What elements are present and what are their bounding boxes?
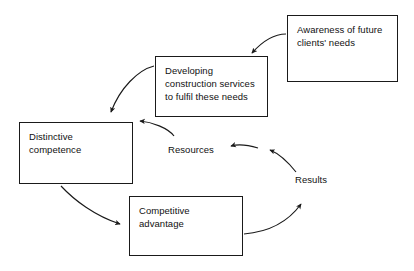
label-results: Results bbox=[295, 174, 327, 186]
node-label: Developing construction services to fulf… bbox=[165, 64, 267, 104]
node-label: Distinctive competence bbox=[29, 130, 132, 156]
arrow-results-to-resources bbox=[270, 150, 296, 172]
node-developing-construction-services[interactable]: Developing construction services to fulf… bbox=[155, 56, 268, 117]
label-resources: Resources bbox=[168, 144, 214, 156]
arrow-resources-inbound-segment bbox=[231, 145, 258, 148]
arrow-resources-to-distinctive bbox=[140, 121, 174, 136]
arrow-developing-to-distinctive bbox=[111, 66, 154, 112]
node-distinctive-competence[interactable]: Distinctive competence bbox=[19, 122, 133, 184]
node-label: Competitive advantage bbox=[139, 204, 242, 230]
node-label: Awareness of future clients' needs bbox=[297, 23, 397, 49]
arrow-distinctive-to-competitive bbox=[61, 186, 120, 224]
node-competitive-advantage[interactable]: Competitive advantage bbox=[129, 196, 243, 256]
arrow-awareness-to-developing bbox=[252, 34, 286, 53]
node-awareness-of-future-clients-needs[interactable]: Awareness of future clients' needs bbox=[287, 15, 398, 82]
diagram-canvas: Awareness of future clients' needs Devel… bbox=[0, 0, 414, 271]
arrow-competitive-to-results bbox=[244, 204, 301, 234]
